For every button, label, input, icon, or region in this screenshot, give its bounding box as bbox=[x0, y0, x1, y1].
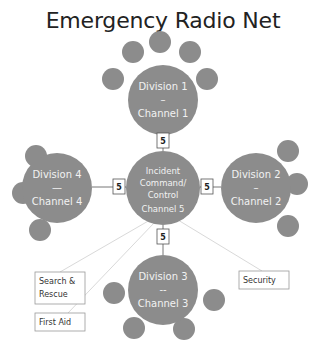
incident-command-label-line: Incident bbox=[146, 166, 181, 176]
link-channel-label: 5 bbox=[160, 137, 166, 146]
member-station-node bbox=[123, 317, 145, 339]
link-channel-label: 5 bbox=[116, 183, 122, 192]
incident-command-label-line: Channel 5 bbox=[141, 204, 184, 214]
unit-label-line: Search & bbox=[39, 277, 75, 286]
connector-line bbox=[178, 220, 262, 271]
division-3-group: Division 3--Channel 3 bbox=[103, 255, 225, 340]
unit-label-line: First Aid bbox=[39, 318, 71, 327]
link-channel-label: 5 bbox=[160, 233, 166, 242]
division-3-label-line: Division 3 bbox=[138, 271, 187, 282]
channel-5-link-box: 5 bbox=[157, 133, 169, 148]
member-station-node bbox=[103, 282, 125, 304]
division-3-label-line: Channel 3 bbox=[138, 298, 189, 309]
link-channel-label: 5 bbox=[204, 183, 210, 192]
member-station-node bbox=[203, 289, 225, 311]
incident-command-label-line: Control bbox=[148, 190, 179, 200]
member-station-node bbox=[196, 68, 218, 90]
division-2-label-line: Division 2 bbox=[231, 169, 280, 180]
division-1-label-line: Channel 1 bbox=[138, 108, 189, 119]
division-1-label-line: – bbox=[161, 94, 166, 105]
unit-label-line: Security bbox=[243, 276, 276, 285]
division-2-label-line: Channel 2 bbox=[231, 196, 282, 207]
radio-net-diagram: Division 1–Channel 1Division 2–Channel 2… bbox=[0, 0, 326, 354]
connector-line bbox=[60, 220, 150, 272]
member-station-node bbox=[149, 31, 171, 53]
member-station-node bbox=[277, 215, 299, 237]
incident-command-label-line: Command/ bbox=[140, 178, 187, 188]
division-1-group: Division 1–Channel 1 bbox=[102, 31, 218, 135]
division-4-label-line: Division 4 bbox=[32, 169, 81, 180]
channel-5-link-box: 5 bbox=[113, 179, 125, 194]
member-station-node bbox=[122, 41, 144, 63]
channel-5-link-box: 5 bbox=[201, 179, 213, 194]
unit-box: First Aid bbox=[35, 313, 85, 331]
member-station-node bbox=[277, 140, 299, 162]
member-station-node bbox=[102, 68, 124, 90]
unit-box: Search &Rescue bbox=[35, 272, 85, 304]
division-4-group: Division 4—Channel 4 bbox=[12, 145, 92, 241]
unit-box: Security bbox=[239, 271, 289, 289]
incident-command-group: IncidentCommand/ControlChannel 5 bbox=[126, 151, 200, 225]
channel-5-link-box: 5 bbox=[157, 229, 169, 244]
division-4-label-line: — bbox=[52, 182, 62, 193]
member-station-node bbox=[29, 219, 51, 241]
division-4-label-line: Channel 4 bbox=[32, 196, 83, 207]
division-1-label-line: Division 1 bbox=[138, 81, 187, 92]
division-3-label-line: -- bbox=[159, 284, 167, 295]
division-2-group: Division 2–Channel 2 bbox=[221, 140, 308, 237]
division-2-label-line: – bbox=[254, 182, 259, 193]
unit-label-line: Rescue bbox=[39, 290, 68, 299]
member-station-node bbox=[179, 41, 201, 63]
